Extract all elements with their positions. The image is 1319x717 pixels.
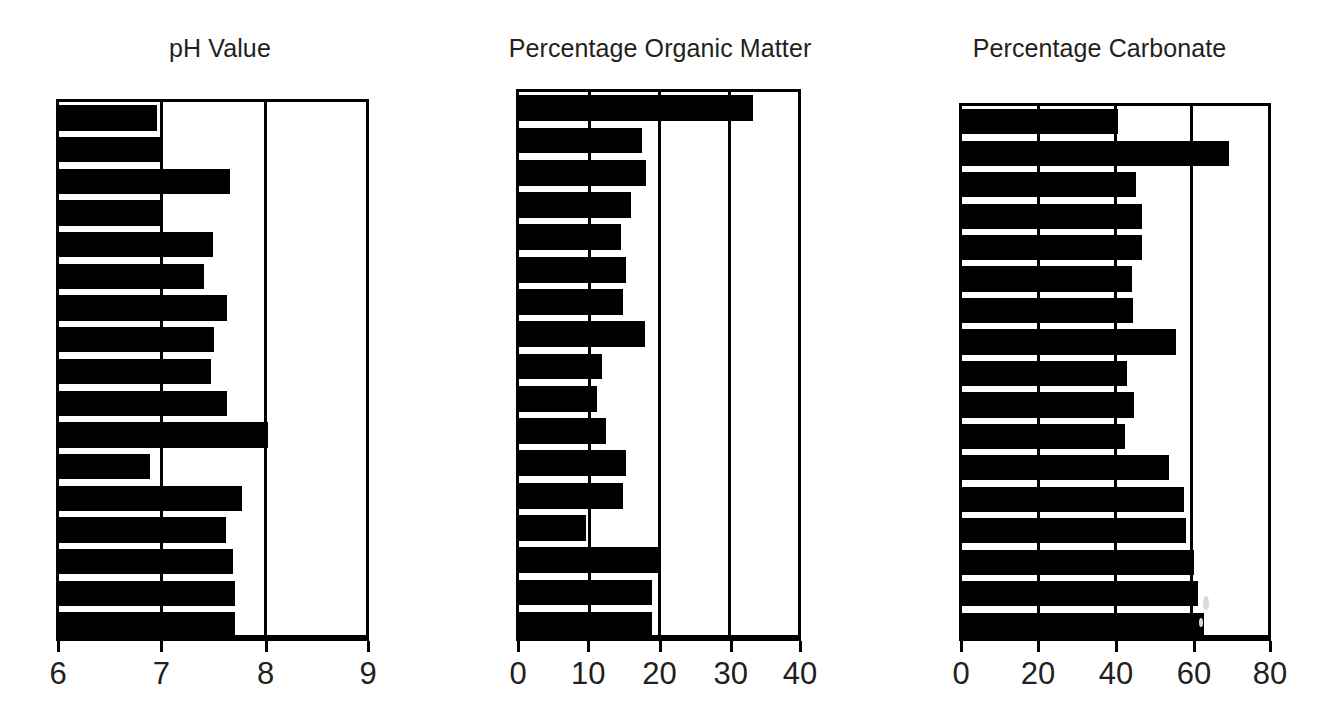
bar-row xyxy=(59,197,366,229)
axis-tick xyxy=(160,641,163,652)
panel-ph-value: pH Value 6789 xyxy=(0,0,440,717)
bar-row xyxy=(59,419,366,451)
axis-tick-label: 20 xyxy=(642,658,676,689)
bar xyxy=(519,289,623,315)
bar xyxy=(59,422,268,447)
axis-tick-label: 80 xyxy=(1253,658,1287,689)
bar-row xyxy=(59,451,366,483)
bar xyxy=(59,200,162,225)
axis-tick-label: 0 xyxy=(952,658,969,689)
bar xyxy=(519,257,626,283)
panel-title-carbonate: Percentage Carbonate xyxy=(880,34,1319,63)
bar xyxy=(962,172,1136,197)
gridline-organic-30 xyxy=(728,92,731,635)
bar-row xyxy=(59,292,366,324)
bar-row xyxy=(59,102,366,134)
bar-row xyxy=(59,134,366,166)
axis-tick xyxy=(1193,641,1196,652)
bar xyxy=(962,613,1204,638)
bar xyxy=(59,612,235,637)
bar xyxy=(962,424,1125,449)
bar xyxy=(962,141,1229,166)
axis-tick xyxy=(1115,641,1118,652)
gridline-carbonate-20 xyxy=(1037,106,1040,635)
bar xyxy=(962,109,1118,134)
bar xyxy=(59,327,214,352)
bar xyxy=(519,224,621,250)
bar xyxy=(59,517,226,542)
bar xyxy=(962,361,1127,386)
bar xyxy=(519,612,652,638)
axis-tick xyxy=(1037,641,1040,652)
bar xyxy=(962,329,1176,354)
axis-tick xyxy=(659,641,662,652)
axis-tick-label: 9 xyxy=(359,658,376,689)
bar xyxy=(962,581,1198,606)
axis-tick-label: 10 xyxy=(571,658,605,689)
panel-title-organic: Percentage Organic Matter xyxy=(440,34,880,63)
bar-row xyxy=(59,482,366,514)
bar xyxy=(962,550,1194,575)
bar xyxy=(59,359,211,384)
scan-artifact-speck xyxy=(1199,618,1203,627)
plot-area-ph xyxy=(56,99,369,638)
bar xyxy=(519,192,631,218)
bar xyxy=(519,386,597,412)
panel-percentage-carbonate: Percentage Carbonate 020406080 xyxy=(880,0,1319,717)
bar xyxy=(962,298,1133,323)
gridline-ph-8 xyxy=(264,102,267,635)
bar xyxy=(59,391,227,416)
scan-artifact-speck xyxy=(1203,596,1209,610)
bar xyxy=(59,486,242,511)
axis-line xyxy=(56,638,369,641)
axis-tick xyxy=(1269,641,1272,652)
axis-tick xyxy=(57,641,60,652)
bar xyxy=(519,515,586,541)
bar xyxy=(962,487,1184,512)
axis-tick-label: 7 xyxy=(153,658,170,689)
bar-chart-figure: pH Value 6789 Percentage Organic Matter … xyxy=(0,0,1319,717)
bar-row xyxy=(59,609,366,641)
axis-tick xyxy=(730,641,733,652)
axis-tick-label: 0 xyxy=(509,658,526,689)
axis-tick xyxy=(367,641,370,652)
bar xyxy=(59,169,230,194)
bar xyxy=(519,128,642,154)
plot-area-organic xyxy=(516,89,801,638)
bar xyxy=(59,137,162,162)
bar xyxy=(962,266,1132,291)
axis-tick-label: 40 xyxy=(1099,658,1133,689)
bar xyxy=(519,483,623,509)
axis-tick xyxy=(265,641,268,652)
bar-row xyxy=(59,546,366,578)
axis-tick-label: 60 xyxy=(1177,658,1211,689)
bar xyxy=(519,450,626,476)
bar-row xyxy=(59,165,366,197)
bar xyxy=(59,581,235,606)
bar-row xyxy=(59,324,366,356)
bar-row xyxy=(59,578,366,610)
bar xyxy=(59,454,150,479)
gridline-ph-7 xyxy=(160,102,163,635)
panel-title-ph: pH Value xyxy=(0,34,440,63)
gridline-organic-20 xyxy=(658,92,661,635)
gridline-organic-10 xyxy=(588,92,591,635)
gridline-carbonate-40 xyxy=(1114,106,1117,635)
bar xyxy=(519,418,606,444)
bar xyxy=(519,160,646,186)
axis-tick xyxy=(587,641,590,652)
bar xyxy=(962,392,1134,417)
gridline-carbonate-60 xyxy=(1190,106,1193,635)
panel-percentage-organic-matter: Percentage Organic Matter 010203040 xyxy=(440,0,880,717)
bar xyxy=(59,295,227,320)
bar xyxy=(519,95,753,121)
bar-group-ph xyxy=(59,102,366,635)
axis-tick xyxy=(517,641,520,652)
bar xyxy=(59,549,233,574)
axis-tick-label: 40 xyxy=(783,658,817,689)
bar-row xyxy=(59,356,366,388)
bar-row xyxy=(59,229,366,261)
bar xyxy=(962,455,1169,480)
bar-row xyxy=(59,387,366,419)
axis-tick-label: 30 xyxy=(714,658,748,689)
